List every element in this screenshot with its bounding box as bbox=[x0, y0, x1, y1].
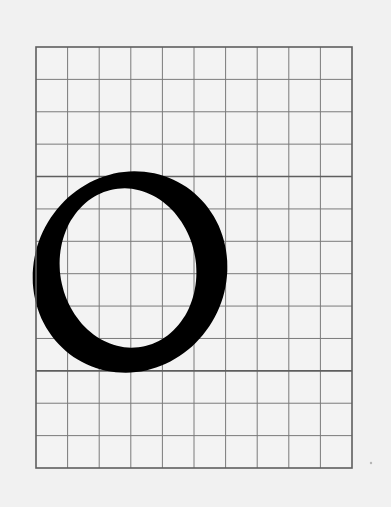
letter-o-grid-figure bbox=[0, 0, 391, 507]
paper-speck bbox=[370, 462, 372, 464]
